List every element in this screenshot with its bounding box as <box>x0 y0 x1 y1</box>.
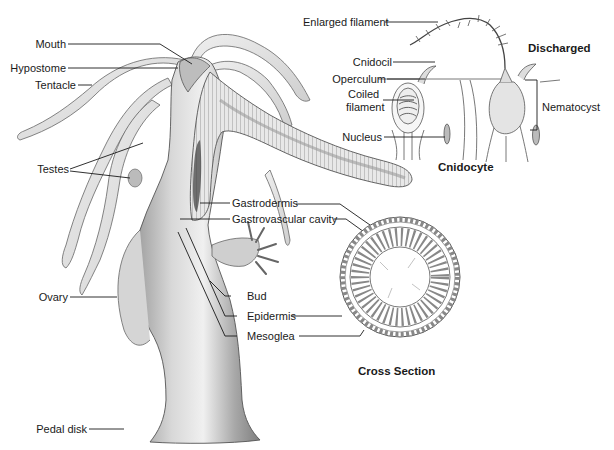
label-coiled-filament-2: filament <box>346 101 385 113</box>
label-tentacle: Tentacle <box>10 79 76 91</box>
label-gastrodermis: Gastrodermis <box>232 197 298 209</box>
bud <box>212 222 278 274</box>
label-cnidocyte-title: Cnidocyte <box>438 161 494 173</box>
label-gastrovascular-cavity: Gastrovascular cavity <box>232 213 337 225</box>
cross-section-illustration <box>340 217 460 337</box>
label-cnidocil: Cnidocil <box>330 56 392 68</box>
hydra-diagram: Mouth Hypostome Tentacle Testes Ovary Pe… <box>0 0 614 450</box>
label-epidermis: Epidermis <box>247 310 296 322</box>
label-nematocyst: Nematocyst <box>542 101 600 113</box>
label-nucleus: Nucleus <box>320 131 382 143</box>
label-discharged: Discharged <box>528 42 591 54</box>
label-ovary: Ovary <box>10 291 68 303</box>
label-mouth: Mouth <box>20 38 66 50</box>
label-testes: Testes <box>10 163 69 175</box>
cnidocyte-illustration <box>378 15 560 162</box>
label-enlarged-filament: Enlarged filament <box>303 16 389 28</box>
label-operculum: Operculum <box>320 73 386 85</box>
label-bud: Bud <box>247 290 267 302</box>
label-cross-section-title: Cross Section <box>358 365 435 377</box>
hydra-illustration <box>0 0 614 450</box>
label-coiled-filament-1: Coiled <box>348 88 379 100</box>
label-pedal-disk: Pedal disk <box>10 423 87 435</box>
label-mesoglea: Mesoglea <box>247 330 295 342</box>
label-hypostome: Hypostome <box>0 62 66 74</box>
